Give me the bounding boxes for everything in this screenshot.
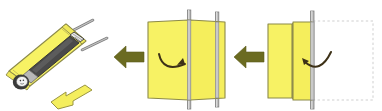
panel-flat-sheet-graphic xyxy=(266,8,382,111)
panel-flat-sheet xyxy=(266,8,382,111)
panel-folded-graphic xyxy=(146,8,236,111)
step-arrow-right xyxy=(233,44,267,70)
sheet-half-right xyxy=(293,22,312,100)
arrow-left-icon xyxy=(113,44,147,70)
panel-final-stretcher-graphic xyxy=(0,10,112,111)
arrow-left-icon xyxy=(233,44,267,70)
panel-final-stretcher xyxy=(0,10,112,111)
pole-icon xyxy=(187,20,190,100)
dashed-outline-icon xyxy=(313,12,373,108)
sheet-half-left xyxy=(268,24,292,98)
diagram-canvas xyxy=(0,0,382,111)
step-arrow-left xyxy=(113,44,147,70)
pole-icon xyxy=(311,22,314,100)
sheet-half-right xyxy=(190,20,225,100)
pole-icon xyxy=(215,22,218,98)
panel-folded-around-poles xyxy=(146,8,236,111)
arrow-up-right-icon xyxy=(51,85,92,109)
